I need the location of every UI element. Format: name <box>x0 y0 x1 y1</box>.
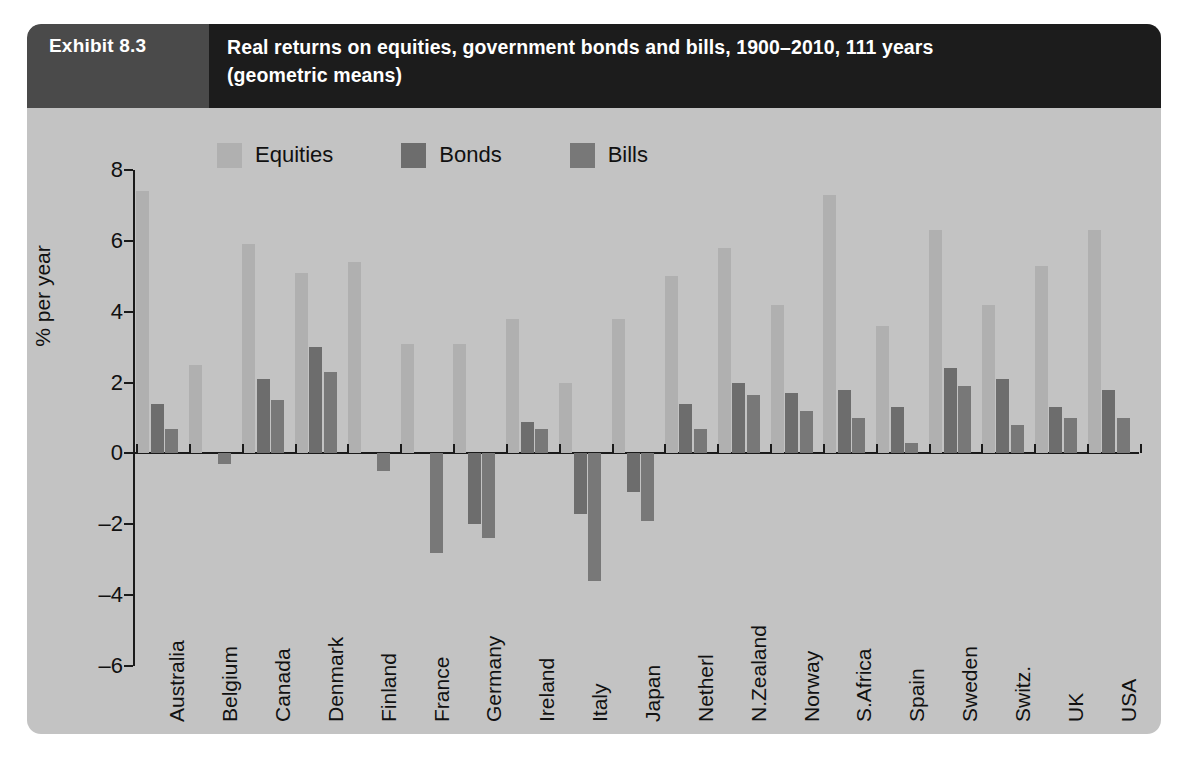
x-tick-mark <box>717 444 719 453</box>
bar-bonds-uk <box>1049 407 1062 453</box>
chart-legend: EquitiesBondsBills <box>217 142 648 168</box>
bars-container: AustraliaBelgiumCanadaDenmarkFinlandFran… <box>135 108 1139 734</box>
x-tick-mark <box>823 444 825 453</box>
bar-bills-finland <box>377 453 390 471</box>
bar-group <box>1035 108 1077 734</box>
bar-equities-france <box>401 344 414 454</box>
bar-bonds-sweden <box>944 368 957 453</box>
bar-equities-spain <box>876 326 889 454</box>
x-axis-label-finland: Finland <box>377 653 401 722</box>
x-tick-mark <box>506 444 508 453</box>
bar-bills-japan <box>641 453 654 520</box>
bar-bills-norway <box>800 411 813 454</box>
x-axis-label-canada: Canada <box>271 648 295 722</box>
bar-group <box>823 108 865 734</box>
x-tick-mark <box>770 444 772 453</box>
exhibit-title-line-1: Real returns on equities, government bon… <box>227 36 933 58</box>
y-tick-mark <box>124 523 133 525</box>
x-axis-label-uk: UK <box>1064 693 1088 722</box>
y-tick-mark <box>124 665 133 667</box>
legend-swatch-bonds <box>401 143 426 168</box>
y-axis-label: % per year <box>31 216 55 376</box>
x-axis-label-switz-: Switz. <box>1011 666 1035 722</box>
y-tick-mark <box>124 169 133 171</box>
bar-group <box>982 108 1024 734</box>
x-tick-mark <box>136 444 138 453</box>
bar-equities-australia <box>136 191 149 453</box>
bar-group <box>612 108 654 734</box>
bar-group <box>189 108 231 734</box>
x-axis-label-usa: USA <box>1117 679 1141 722</box>
bar-equities-finland <box>348 262 361 453</box>
x-tick-mark <box>400 444 402 453</box>
x-axis-label-belgium: Belgium <box>218 646 242 722</box>
bar-bills-sweden <box>958 386 971 453</box>
bar-equities-denmark <box>295 273 308 454</box>
bar-bills-france <box>430 453 443 552</box>
x-axis-label-japan: Japan <box>641 665 665 722</box>
bar-bonds-n-zealand <box>732 383 745 454</box>
bar-group <box>401 108 443 734</box>
y-tick-mark <box>124 382 133 384</box>
bar-group <box>348 108 390 734</box>
x-axis-label-denmark: Denmark <box>324 637 348 722</box>
bar-bonds-denmark <box>309 347 322 453</box>
bar-equities-n-zealand <box>718 248 731 453</box>
bar-bills-netherl <box>694 429 707 454</box>
legend-item-equities[interactable]: Equities <box>217 142 333 168</box>
y-tick-label: 2 <box>111 370 123 396</box>
x-tick-mark <box>929 444 931 453</box>
chart-plot-area: % per year 86420–2–4–6 AustraliaBelgiumC… <box>27 108 1161 734</box>
exhibit-title: Real returns on equities, government bon… <box>227 34 1145 89</box>
x-axis-label-france: France <box>430 657 454 722</box>
bar-equities-italy <box>559 383 572 454</box>
legend-label-bonds: Bonds <box>439 142 501 168</box>
y-tick-label: –2 <box>99 511 123 537</box>
bar-equities-belgium <box>189 365 202 454</box>
exhibit-number: Exhibit 8.3 <box>27 24 146 57</box>
bar-bonds-ireland <box>521 422 534 454</box>
legend-item-bonds[interactable]: Bonds <box>401 142 501 168</box>
bar-bills-switz- <box>1011 425 1024 453</box>
legend-label-equities: Equities <box>255 142 333 168</box>
x-axis-label-sweden: Sweden <box>958 646 982 722</box>
bar-equities-sweden <box>929 230 942 453</box>
y-tick-label: 4 <box>111 299 123 325</box>
bar-bills-canada <box>271 400 284 453</box>
exhibit-header: Exhibit 8.3 Real returns on equities, go… <box>27 24 1161 108</box>
bar-bonds-usa <box>1102 390 1115 454</box>
x-tick-mark <box>1034 444 1036 453</box>
y-tick-mark <box>124 311 133 313</box>
y-axis-ticks: 86420–2–4–6 <box>65 108 133 734</box>
legend-item-bills[interactable]: Bills <box>570 142 648 168</box>
x-tick-mark <box>295 444 297 453</box>
y-tick-label: 0 <box>111 440 123 466</box>
bar-equities-usa <box>1088 230 1101 453</box>
bar-group <box>506 108 548 734</box>
y-tick-mark <box>124 594 133 596</box>
x-axis-label-italy: Italy <box>588 683 612 722</box>
bar-bonds-germany <box>468 453 481 524</box>
exhibit-title-box: Real returns on equities, government bon… <box>209 24 1161 108</box>
bar-bills-italy <box>588 453 601 581</box>
bar-bonds-norway <box>785 393 798 453</box>
x-tick-mark <box>981 444 983 453</box>
x-tick-mark <box>876 444 878 453</box>
bar-equities-canada <box>242 244 255 453</box>
bar-equities-s-africa <box>823 195 836 454</box>
x-tick-mark <box>1140 444 1142 453</box>
y-tick-label: –4 <box>99 582 123 608</box>
bar-bonds-canada <box>257 379 270 453</box>
bar-group <box>242 108 284 734</box>
bar-equities-netherl <box>665 276 678 453</box>
bar-equities-switz- <box>982 305 995 454</box>
bar-equities-ireland <box>506 319 519 454</box>
bar-bonds-switz- <box>996 379 1009 453</box>
legend-swatch-bills <box>570 143 595 168</box>
x-tick-mark <box>453 444 455 453</box>
x-tick-mark <box>1087 444 1089 453</box>
legend-swatch-equities <box>217 143 242 168</box>
bar-equities-norway <box>771 305 784 454</box>
exhibit-panel: Exhibit 8.3 Real returns on equities, go… <box>27 24 1161 734</box>
y-tick-label: 8 <box>111 157 123 183</box>
